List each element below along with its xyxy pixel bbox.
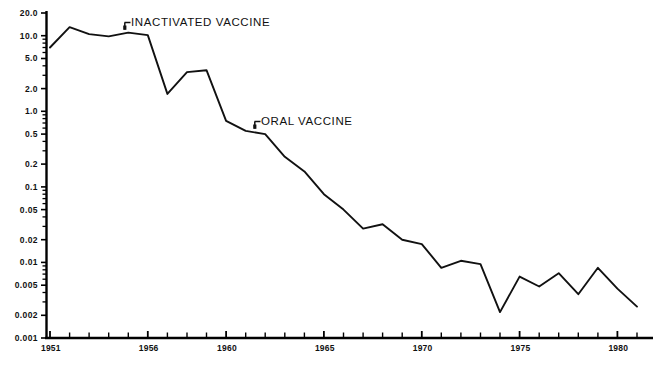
y-tick-label: 20.0 (0, 8, 38, 18)
data-line-polyline (50, 27, 637, 312)
annotation-pointer-oral (255, 122, 261, 129)
y-tick-label: 5.0 (0, 53, 38, 63)
y-tick-label: 2.0 (0, 84, 38, 94)
annotation-pointer-inactivated (125, 23, 131, 30)
y-tick-label: 0.2 (0, 159, 38, 169)
chart-figure: 20.010.05.02.01.00.50.20.10.050.020.010.… (0, 0, 657, 372)
annotation-inactivated-vaccine: INACTIVATED VACCINE (131, 16, 270, 28)
x-tick-label: 1960 (217, 343, 237, 353)
annotation-oral-label: ORAL VACCINE (261, 115, 353, 127)
annotation-inactivated-label: INACTIVATED VACCINE (131, 16, 270, 28)
y-tick-label: 0.02 (0, 235, 38, 245)
axis-lines (45, 11, 653, 339)
y-tick-label: 1.0 (0, 106, 38, 116)
y-tick-label: 0.005 (0, 280, 38, 290)
y-tick-label: 0.001 (0, 333, 38, 343)
x-tick-label: 1970 (413, 343, 433, 353)
y-tick-label: 0.1 (0, 182, 38, 192)
x-tick-label: 1956 (139, 343, 159, 353)
y-tick-label: 10.0 (0, 31, 38, 41)
y-tick-label: 0.002 (0, 310, 38, 320)
x-tick-label: 1951 (41, 343, 61, 353)
x-tick-label: 1965 (315, 343, 335, 353)
annotation-oral-vaccine: ORAL VACCINE (261, 115, 353, 127)
chart-canvas (0, 0, 657, 372)
y-tick-label: 0.05 (0, 205, 38, 215)
x-tick-label: 1980 (608, 343, 628, 353)
y-tick-label: 0.01 (0, 257, 38, 267)
y-tick-label: 0.5 (0, 129, 38, 139)
x-tick-label: 1975 (511, 343, 531, 353)
